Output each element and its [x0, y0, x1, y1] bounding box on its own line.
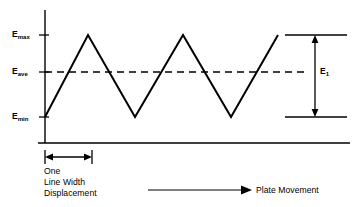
displacement-arrowhead-left — [45, 154, 53, 161]
displacement-caption-line-2: Line Width — [44, 177, 97, 188]
dimension-label-e-t-base: E — [320, 66, 326, 76]
axis-label-e-min-subscript: min — [18, 116, 29, 122]
figure-container: Emax Eave Emin E1 One Line Width Displac… — [0, 0, 356, 207]
axis-label-e-ave-base: E — [12, 66, 18, 76]
e-t-dimension-group — [285, 35, 347, 117]
displacement-caption-line-3: Displacement — [44, 188, 97, 199]
axes-group — [38, 10, 350, 143]
axis-label-e-max-base: E — [12, 29, 18, 39]
axis-label-e-max-subscript: max — [18, 34, 30, 40]
displacement-caption: One Line Width Displacement — [44, 166, 97, 200]
e-t-arrowhead-down — [312, 109, 319, 117]
axis-label-e-ave-subscript: ave — [18, 71, 28, 77]
axis-label-e-max: Emax — [12, 30, 30, 39]
plate-movement-caption: Plate Movement — [256, 186, 319, 195]
displacement-arrowhead-right — [84, 154, 92, 161]
sawtooth-waveform — [45, 35, 278, 117]
axis-label-e-min-base: E — [12, 111, 18, 121]
axis-label-e-min: Emin — [12, 112, 28, 121]
level-ticks-group — [39, 35, 49, 117]
displacement-caption-line-1: One — [44, 166, 97, 177]
plate-movement-arrow-group — [148, 186, 252, 195]
dimension-label-e-t-subscript: 1 — [326, 71, 329, 77]
dimension-label-e-t: E1 — [320, 67, 329, 76]
displacement-dimension-group — [45, 150, 92, 164]
axis-label-e-ave: Eave — [12, 67, 28, 76]
plate-movement-arrowhead — [241, 186, 252, 195]
e-t-arrowhead-up — [312, 35, 319, 43]
